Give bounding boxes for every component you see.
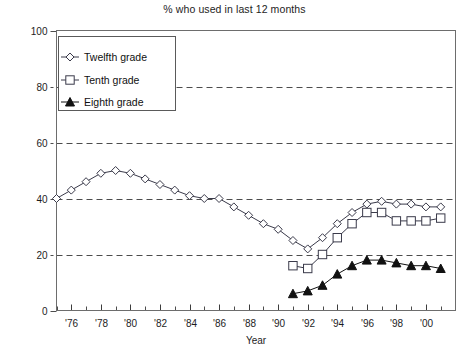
marker-open-square bbox=[422, 217, 430, 225]
marker-open-square bbox=[318, 250, 326, 258]
x-tick-label: '90 bbox=[272, 318, 285, 329]
marker-open-diamond bbox=[274, 225, 282, 233]
x-tick-label: '84 bbox=[184, 318, 197, 329]
marker-open-square bbox=[407, 217, 415, 225]
data-series bbox=[53, 167, 446, 298]
marker-open-diamond bbox=[200, 195, 208, 203]
x-tick-label: '88 bbox=[243, 318, 256, 329]
marker-open-square bbox=[392, 217, 400, 225]
marker-open-square bbox=[348, 220, 356, 228]
marker-open-square bbox=[304, 264, 312, 272]
marker-filled-triangle bbox=[348, 261, 357, 270]
x-tick-label: '76 bbox=[65, 318, 78, 329]
marker-filled-triangle bbox=[333, 270, 342, 279]
series-line bbox=[293, 260, 441, 294]
marker-open-diamond bbox=[82, 178, 90, 186]
plot-area: 020406080100 '76'78'80'82'84'86'88'90'92… bbox=[0, 0, 469, 353]
marker-open-diamond bbox=[126, 169, 134, 177]
legend-marker-2 bbox=[66, 76, 74, 84]
marker-open-diamond bbox=[304, 245, 312, 253]
chart-legend: Twelfth gradeTenth gradeEighth grade bbox=[59, 37, 176, 111]
marker-open-diamond bbox=[186, 192, 194, 200]
marker-open-diamond bbox=[289, 237, 297, 245]
x-tick-label: '98 bbox=[390, 318, 403, 329]
x-tick-label: '00 bbox=[420, 318, 433, 329]
x-tick-label: '78 bbox=[95, 318, 108, 329]
marker-open-diamond bbox=[112, 167, 120, 175]
marker-open-diamond bbox=[230, 203, 238, 211]
x-axis-ticks: '76'78'80'82'84'86'88'90'92'94'96'98'00 bbox=[58, 305, 442, 329]
y-tick-label: 80 bbox=[36, 82, 48, 93]
x-tick-label: '94 bbox=[331, 318, 344, 329]
x-axis-title: Year bbox=[246, 335, 267, 346]
marker-open-square bbox=[437, 214, 445, 222]
x-tick-label: '82 bbox=[154, 318, 167, 329]
legend-label-1: Twelfth grade bbox=[84, 51, 147, 63]
marker-open-diamond bbox=[97, 169, 105, 177]
marker-open-diamond bbox=[245, 211, 253, 219]
marker-open-diamond bbox=[348, 209, 356, 217]
marker-open-diamond bbox=[67, 186, 75, 194]
marker-open-square bbox=[377, 208, 385, 216]
marker-filled-triangle bbox=[318, 281, 327, 290]
marker-open-diamond bbox=[141, 175, 149, 183]
legend-label-2: Tenth grade bbox=[84, 74, 140, 86]
series-eighth-grade bbox=[288, 256, 445, 298]
marker-open-diamond bbox=[378, 197, 386, 205]
marker-open-diamond bbox=[171, 186, 179, 194]
marker-open-diamond bbox=[392, 200, 400, 208]
marker-open-diamond bbox=[53, 195, 61, 203]
y-axis-ticks: 020406080100 bbox=[31, 26, 57, 317]
marker-open-diamond bbox=[215, 195, 223, 203]
y-tick-label: 0 bbox=[42, 306, 48, 317]
x-tick-label: '92 bbox=[302, 318, 315, 329]
legend-label-3: Eighth grade bbox=[84, 96, 144, 108]
marker-open-diamond bbox=[422, 203, 430, 211]
x-tick-label: '86 bbox=[213, 318, 226, 329]
y-tick-label: 20 bbox=[36, 250, 48, 261]
marker-open-diamond bbox=[363, 200, 371, 208]
marker-open-diamond bbox=[407, 200, 415, 208]
marker-open-square bbox=[363, 208, 371, 216]
y-tick-label: 40 bbox=[36, 194, 48, 205]
y-tick-label: 60 bbox=[36, 138, 48, 149]
y-tick-label: 100 bbox=[31, 26, 48, 37]
chart-figure: % who used in last 12 months 02040608010… bbox=[0, 0, 469, 353]
marker-open-diamond bbox=[437, 203, 445, 211]
x-tick-label: '96 bbox=[361, 318, 374, 329]
x-tick-label: '80 bbox=[124, 318, 137, 329]
marker-open-square bbox=[289, 262, 297, 270]
marker-open-square bbox=[333, 234, 341, 242]
marker-filled-triangle bbox=[303, 286, 312, 295]
marker-open-diamond bbox=[156, 181, 164, 189]
marker-open-diamond bbox=[259, 220, 267, 228]
